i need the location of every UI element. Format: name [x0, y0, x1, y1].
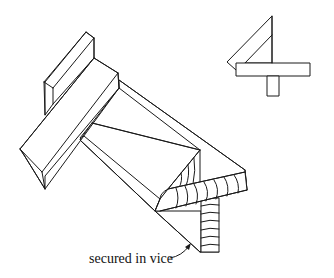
diagram-canvas: secured in vice — [0, 0, 334, 278]
leader-arrow — [170, 243, 191, 258]
section-inset — [227, 16, 310, 96]
post — [201, 198, 219, 252]
main-assembly: secured in vice — [20, 32, 247, 266]
vice-label: secured in vice — [89, 251, 173, 266]
